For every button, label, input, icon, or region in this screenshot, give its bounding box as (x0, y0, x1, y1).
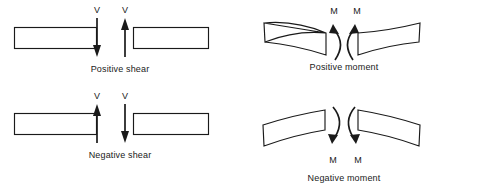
beam-segment-left (263, 110, 325, 146)
moment-arrow-left (329, 24, 341, 60)
beam-segment-right (358, 110, 420, 146)
caption-positive-shear: Positive shear (45, 64, 195, 74)
force-label-right: M (350, 155, 366, 165)
caption-negative-moment: Negative moment (269, 173, 419, 183)
beam-segment-right (134, 28, 209, 49)
beam-segment-left (15, 114, 97, 135)
panel-positive-shear: V V Positive shear (0, 0, 240, 95)
force-label-right: V (118, 5, 132, 15)
panel-negative-moment: M M Negative moment (240, 95, 478, 191)
caption-negative-shear: Negative shear (45, 150, 195, 160)
force-label-left: M (325, 155, 341, 165)
shear-arrow-right-up (121, 18, 129, 57)
force-label-right: V (118, 91, 132, 101)
panel-negative-shear: V V Negative shear (0, 86, 240, 191)
shear-arrow-right-down (121, 104, 129, 143)
panel-positive-moment: M M Positive moment (240, 0, 478, 95)
moment-arrow-left (328, 107, 340, 144)
beam-segment-right (134, 114, 209, 135)
negative-shear-drawing (0, 86, 240, 191)
force-label-left: V (90, 91, 104, 101)
force-label-left: M (326, 6, 342, 16)
beam-segment-left (15, 28, 97, 49)
moment-arrow-right (348, 24, 360, 60)
shear-moment-sign-convention-figure: V V Positive shear V V Negative shear (0, 0, 478, 191)
beam-segment-left (264, 22, 326, 55)
force-label-left: V (90, 5, 104, 15)
beam-segment-right (358, 23, 420, 55)
caption-positive-moment: Positive moment (269, 62, 419, 72)
force-label-right: M (349, 6, 365, 16)
